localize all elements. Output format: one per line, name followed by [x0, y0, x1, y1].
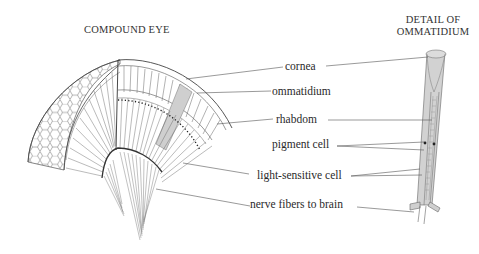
label-cornea: cornea — [285, 60, 316, 73]
compound-eye-illustration — [28, 60, 232, 240]
label-pigment-cell: pigment cell — [272, 138, 329, 151]
compound-eye-diagram — [0, 0, 479, 254]
label-ommatidium: ommatidium — [272, 85, 331, 98]
ommatidium-detail-illustration — [410, 50, 446, 224]
compound-eye-title: COMPOUND EYE — [84, 24, 170, 36]
leader-lines — [156, 57, 432, 212]
ommatidium-detail-title: DETAIL OF OMMATIDIUM — [393, 14, 473, 38]
label-nerve-fibers: nerve fibers to brain — [250, 198, 343, 211]
ommatidium-detail-title-line1: DETAIL OF — [393, 14, 473, 26]
label-light-sensitive-cell: light-sensitive cell — [257, 169, 342, 182]
ommatidium-detail-title-line2: OMMATIDIUM — [393, 26, 473, 38]
label-rhabdom: rhabdom — [276, 113, 317, 126]
